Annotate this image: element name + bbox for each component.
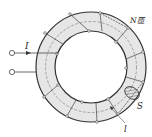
turns-label: N匝 (129, 16, 146, 25)
current-label: I (24, 41, 29, 51)
toroid-diagram: I N匝 S l (0, 0, 152, 137)
path-length-label: l (124, 124, 127, 134)
current-arrow-icon (26, 51, 31, 55)
cross-section-label: S (137, 101, 143, 111)
